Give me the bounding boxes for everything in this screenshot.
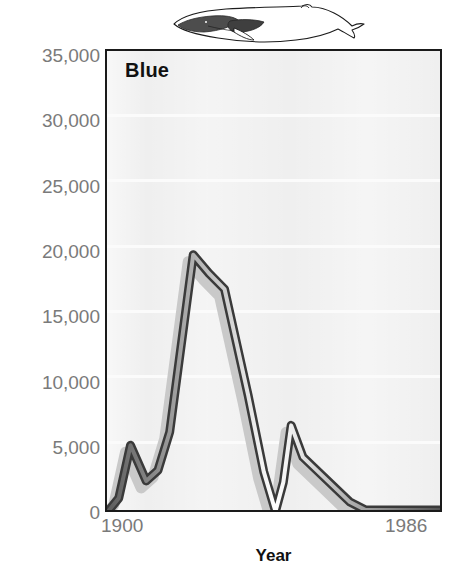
- y-axis: 35,000 30,000 25,000 20,000 15,000 10,00…: [0, 0, 100, 577]
- y-tick-35000: 35,000: [0, 46, 100, 65]
- y-tick-25000: 25,000: [0, 177, 100, 196]
- x-axis-label: Year: [105, 546, 442, 566]
- series-blue-whale-catch: [107, 51, 442, 512]
- blue-whale-illustration: [168, 2, 368, 46]
- y-tick-30000: 30,000: [0, 111, 100, 130]
- y-tick-5000: 5,000: [0, 438, 100, 457]
- plot-inner: Blue: [107, 51, 440, 510]
- y-tick-15000: 15,000: [0, 307, 100, 326]
- y-tick-0: 0: [0, 503, 100, 522]
- plot-area: Blue: [105, 49, 442, 512]
- y-tick-20000: 20,000: [0, 242, 100, 261]
- x-tick-end: 1986: [385, 516, 427, 535]
- y-tick-10000: 10,000: [0, 373, 100, 392]
- panel-title: Blue: [125, 59, 169, 82]
- whale-catch-chart-figure: 35,000 30,000 25,000 20,000 15,000 10,00…: [0, 0, 472, 577]
- x-tick-start: 1900: [101, 516, 143, 535]
